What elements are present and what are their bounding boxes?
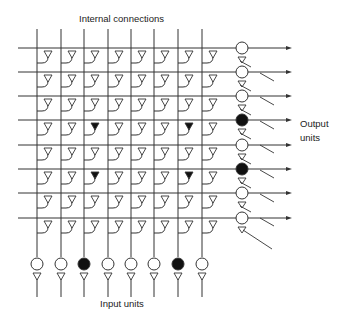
recurrent-line <box>260 121 274 129</box>
synapse <box>37 75 52 87</box>
synapse <box>202 148 217 160</box>
synapse <box>178 75 193 87</box>
synapse-triangle-icon <box>209 75 217 82</box>
synapse-triangle-icon <box>115 148 123 155</box>
synapse-triangle-icon <box>115 51 123 58</box>
synapse <box>84 75 99 87</box>
arrow-head-icon <box>286 143 292 147</box>
synapse-triangle-icon <box>68 148 76 155</box>
synapse <box>108 99 123 111</box>
synapse-triangle-icon <box>91 148 99 155</box>
output-unit-circle-icon <box>236 187 248 199</box>
output-unit-circle-icon <box>236 66 248 78</box>
synapse-triangle-icon <box>161 196 169 203</box>
active-synapse <box>84 123 99 135</box>
synapse-triangle-icon <box>68 75 76 82</box>
input-unit <box>30 257 44 280</box>
synapse-triangle-icon <box>68 99 76 106</box>
synapse-triangle-icon <box>185 51 193 58</box>
synapse-triangle-icon <box>185 75 193 82</box>
input-unit <box>124 257 138 280</box>
recurrent-line <box>260 145 274 153</box>
synapse-triangle-icon <box>115 221 123 228</box>
synapse <box>61 75 76 87</box>
synapse <box>202 172 217 184</box>
synapse <box>202 75 217 87</box>
synapse <box>84 196 99 208</box>
synapse <box>108 75 123 87</box>
synapse <box>108 172 123 184</box>
synapse-triangle-icon <box>115 75 123 82</box>
input-unit-circle-icon <box>196 258 208 270</box>
input-unit <box>54 257 68 280</box>
synapse <box>61 99 76 111</box>
synapse-triangle-icon <box>161 148 169 155</box>
output-unit-circle-icon <box>236 163 248 175</box>
output-unit-circle-icon <box>236 90 248 102</box>
synapse-triangle-icon <box>91 196 99 203</box>
synapse-triangle-icon <box>91 123 99 130</box>
recurrent-line <box>260 194 274 202</box>
synapse-triangle-icon <box>68 123 76 130</box>
synapse <box>178 196 193 208</box>
synapse <box>178 148 193 160</box>
synapse <box>37 123 52 135</box>
internal-connection-synapses <box>37 51 217 233</box>
synapse <box>61 221 76 233</box>
synapse <box>108 221 123 233</box>
input-unit-circle-icon <box>148 258 160 270</box>
active-synapse <box>84 172 99 184</box>
synapse-triangle-icon <box>209 221 217 228</box>
input-unit-circle-icon <box>172 258 184 270</box>
synapse-triangle-icon <box>91 99 99 106</box>
synapse-triangle-icon <box>115 99 123 106</box>
synapse-triangle-icon <box>68 221 76 228</box>
synapse <box>61 51 76 63</box>
output-units-label: Output units <box>300 117 340 145</box>
synapse <box>61 172 76 184</box>
synapse <box>84 148 99 160</box>
synapse-triangle-icon <box>209 123 217 130</box>
arrow-head-icon <box>286 118 292 122</box>
synapse <box>84 51 99 63</box>
synapse-triangle-icon <box>44 221 52 228</box>
synapse <box>202 221 217 233</box>
synapse <box>202 123 217 135</box>
synapse-triangle-icon <box>209 196 217 203</box>
input-unit-circle-icon <box>102 258 114 270</box>
synapse-triangle-icon <box>209 51 217 58</box>
synapse-triangle-icon <box>44 123 52 130</box>
synapse <box>131 221 146 233</box>
synapse <box>178 99 193 111</box>
arrow-head-icon <box>286 70 292 74</box>
synapse-triangle-icon <box>138 221 146 228</box>
synapse <box>202 99 217 111</box>
synapse-triangle-icon <box>91 51 99 58</box>
synapse-triangle-icon <box>138 148 146 155</box>
synapse-triangle-icon <box>138 123 146 130</box>
output-unit-circle-icon <box>236 114 248 126</box>
synapse <box>202 196 217 208</box>
associative-network-diagram <box>0 0 348 328</box>
synapse-triangle-icon <box>185 172 193 179</box>
synapse-triangle-icon <box>115 196 123 203</box>
synapse <box>178 221 193 233</box>
synapse-triangle-icon <box>185 148 193 155</box>
recurrent-line <box>260 218 274 226</box>
input-unit <box>147 257 161 280</box>
synapse-triangle-icon <box>209 99 217 106</box>
synapse <box>37 172 52 184</box>
output-unit-circle-icon <box>236 212 248 224</box>
input-unit-circle-icon <box>55 258 67 270</box>
synapse <box>61 123 76 135</box>
synapse <box>154 172 169 184</box>
synapse-triangle-icon <box>161 99 169 106</box>
synapse <box>37 148 52 160</box>
synapse-triangle-icon <box>68 51 76 58</box>
synapse <box>154 196 169 208</box>
synapse-triangle-icon <box>161 221 169 228</box>
synapse <box>61 196 76 208</box>
synapse-triangle-icon <box>185 221 193 228</box>
synapse <box>37 99 52 111</box>
synapse <box>131 172 146 184</box>
